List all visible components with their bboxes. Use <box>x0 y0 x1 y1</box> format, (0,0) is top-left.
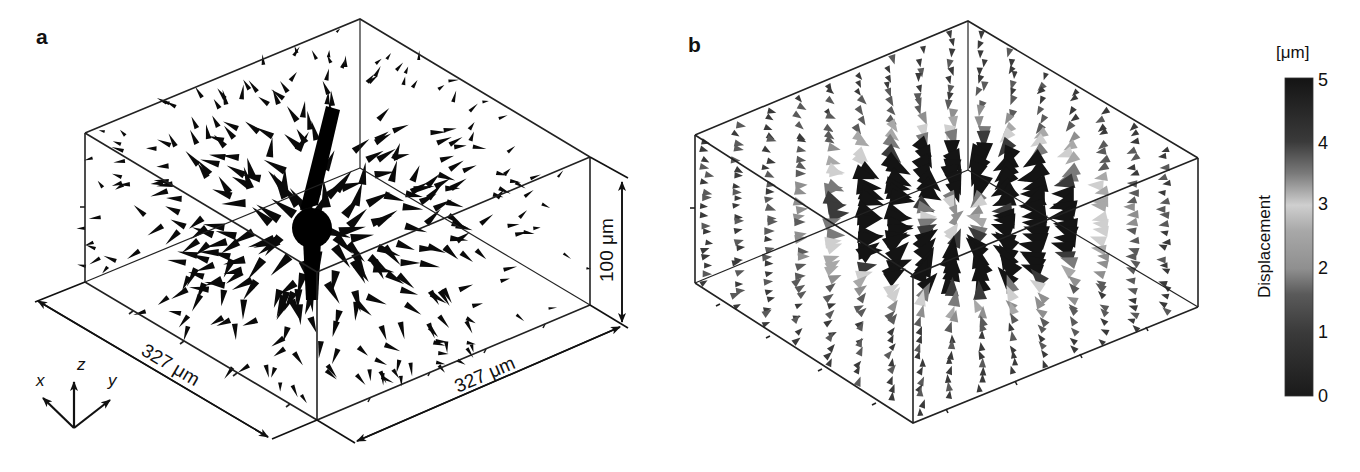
colorbar: [μm] 5 4 3 2 1 0 Displacement <box>1255 43 1328 406</box>
x-axis-arrow-icon <box>43 398 74 428</box>
colorbar-tick-3: 3 <box>1318 194 1328 214</box>
panel-b: b <box>688 21 1198 423</box>
colorbar-tick-1: 1 <box>1318 322 1328 342</box>
colorbar-unit: [μm] <box>1276 43 1309 62</box>
colorbar-title: Displacement <box>1255 195 1274 298</box>
y-axis-arrow-icon <box>74 400 110 428</box>
figure: a <box>0 0 1360 472</box>
axis-y-label: y <box>107 371 118 390</box>
axis-x-label: x <box>35 371 45 390</box>
vector-glyphs-b <box>699 30 1171 416</box>
box-wireframe-b <box>690 21 1198 423</box>
dimension-z-label: 100 μm <box>596 218 617 282</box>
colorbar-gradient <box>1285 78 1313 396</box>
axis-z-label: z <box>76 355 86 374</box>
panel-a: a <box>35 19 628 443</box>
colorbar-tick-2: 2 <box>1318 258 1328 278</box>
bead-shadow-glyph <box>303 240 321 300</box>
axis-triad <box>43 382 110 428</box>
panel-b-label: b <box>688 33 701 56</box>
panel-a-label: a <box>36 25 48 48</box>
colorbar-tick-0: 0 <box>1318 386 1328 406</box>
colorbar-tick-5: 5 <box>1318 70 1328 90</box>
colorbar-tick-4: 4 <box>1318 133 1328 153</box>
